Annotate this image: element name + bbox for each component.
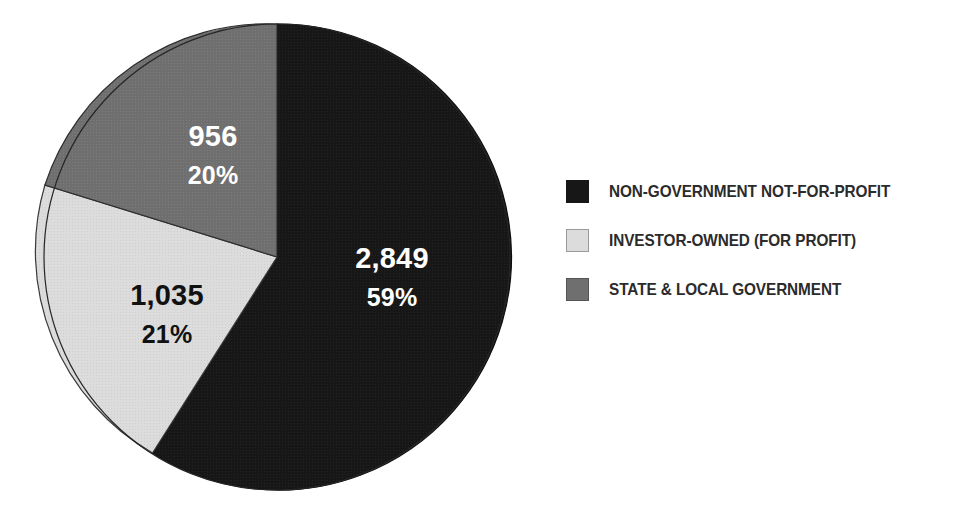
legend-item-investor-owned-for-profit[interactable]: INVESTOR-OWNED (FOR PROFIT)	[566, 227, 966, 253]
legend-item-state-and-local-government[interactable]: STATE & LOCAL GOVERNMENT	[566, 276, 966, 302]
slice-label-percent-investor-owned: 21%	[142, 320, 193, 348]
gray-swatch-icon	[566, 278, 589, 301]
legend-item-label: NON-GOVERNMENT NOT-FOR-PROFIT	[609, 182, 890, 201]
slice-label-value-non-government: 2,849	[355, 242, 429, 274]
legend-item-non-government-not-for-profit[interactable]: NON-GOVERNMENT NOT-FOR-PROFIT	[566, 178, 966, 204]
pie-chart-svg: 956 20% 1,035 21% 2,849 59%	[0, 0, 540, 516]
slice-label-percent-non-government: 59%	[367, 283, 418, 311]
light-gray-swatch-icon	[566, 229, 589, 252]
legend-item-label: INVESTOR-OWNED (FOR PROFIT)	[609, 231, 856, 250]
legend-item-label: STATE & LOCAL GOVERNMENT	[609, 280, 841, 299]
slice-label-value-investor-owned: 1,035	[130, 279, 204, 311]
black-swatch-icon	[566, 180, 589, 203]
pie-chart-area: 956 20% 1,035 21% 2,849 59%	[0, 0, 540, 516]
chart-legend: NON-GOVERNMENT NOT-FOR-PROFIT INVESTOR-O…	[566, 178, 966, 302]
slice-label-percent-state-local: 20%	[188, 161, 239, 189]
slice-label-value-state-local: 956	[189, 120, 238, 152]
pie-chart-page: 956 20% 1,035 21% 2,849 59% NON-GOVERNME…	[0, 0, 975, 516]
